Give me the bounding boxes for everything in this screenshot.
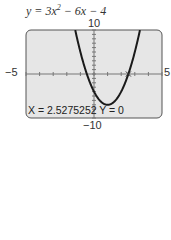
trace-readout: X = 2.5275252 Y = 0 [28,104,124,116]
